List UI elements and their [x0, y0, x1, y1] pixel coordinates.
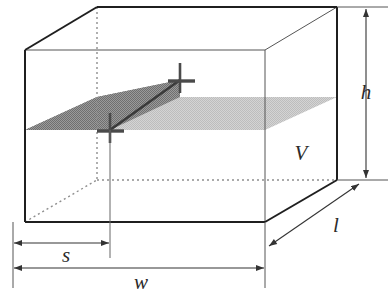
edge-bottom-diagonal-right [265, 180, 337, 222]
hidden-edge-bottom-diagonal-left [25, 180, 97, 222]
label-s: s [62, 243, 70, 267]
edge-top-diagonal-right [265, 7, 337, 50]
label-h: h [361, 80, 372, 104]
box-diagram-svg: h l w s V [0, 0, 391, 307]
label-v: V [295, 141, 310, 165]
label-l: l [333, 213, 339, 237]
label-w: w [134, 270, 148, 294]
edge-top-diagonal-left [25, 7, 97, 50]
figure-container: h l w s V [0, 0, 391, 307]
